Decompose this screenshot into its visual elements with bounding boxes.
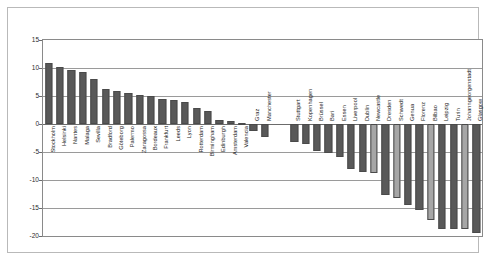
bar[interactable]	[404, 124, 411, 205]
bar-slot: Edinburgh	[214, 40, 225, 236]
x-axis-category-label: Manchester	[267, 91, 273, 121]
bar[interactable]	[336, 124, 343, 157]
bar-slot: Genua	[402, 40, 413, 236]
bar-slot: Frankfurt	[157, 40, 168, 236]
bar[interactable]	[45, 63, 52, 124]
bar[interactable]	[382, 124, 389, 195]
bar-slot: Dublin	[357, 40, 368, 236]
bar[interactable]	[159, 99, 166, 124]
bar-slot: Bordeaux	[145, 40, 156, 236]
bar[interactable]	[91, 79, 98, 124]
bar-slot: Bari	[323, 40, 334, 236]
figure-frame: 151050-5-10-15-20 StockholmHelsinkiNante…	[7, 7, 479, 253]
bar-slot: Schwedt	[391, 40, 402, 236]
bar-slot: Glasgow	[471, 40, 482, 236]
bar-slot: Turin	[448, 40, 459, 236]
bar-slot: Johanngeorgenstadt	[459, 40, 470, 236]
bar[interactable]	[313, 124, 320, 151]
bar[interactable]	[227, 121, 234, 124]
bar[interactable]	[439, 124, 446, 229]
bar-slot: Valencia	[236, 40, 247, 236]
bar-slot: Rotterdam	[191, 40, 202, 236]
bar[interactable]	[461, 124, 468, 229]
bar[interactable]	[370, 124, 377, 173]
bar[interactable]	[261, 124, 268, 137]
bar-slot: Stockholm	[43, 40, 54, 236]
bar[interactable]	[204, 111, 211, 124]
bar[interactable]	[302, 124, 309, 144]
bar[interactable]	[416, 124, 423, 210]
bar[interactable]	[427, 124, 434, 220]
bar[interactable]	[79, 72, 86, 124]
bar-slot: Lyon	[179, 40, 190, 236]
bar-slot: Birmingham	[202, 40, 213, 236]
x-axis-category-label: Glasgow	[478, 99, 484, 121]
bar[interactable]	[56, 67, 63, 124]
bar-slot: Stuttgart	[289, 40, 300, 236]
bar[interactable]	[291, 124, 298, 142]
bar-slot: Graz	[248, 40, 259, 236]
bar-slot: Brüssel	[311, 40, 322, 236]
bar[interactable]	[170, 100, 177, 124]
bar[interactable]	[193, 108, 200, 124]
bar[interactable]	[125, 93, 132, 124]
bar-slot: Malaga	[77, 40, 88, 236]
bar[interactable]	[250, 124, 257, 131]
bar[interactable]	[450, 124, 457, 229]
bar[interactable]	[393, 124, 400, 198]
bar[interactable]	[216, 120, 223, 124]
bar-slot: Bilbao	[425, 40, 436, 236]
bar[interactable]	[113, 91, 120, 124]
bar[interactable]	[359, 124, 366, 172]
bar-slot: Dresden	[380, 40, 391, 236]
bar-slot: Leeds	[168, 40, 179, 236]
bar[interactable]	[102, 89, 109, 124]
y-axis-tick-marks	[8, 39, 42, 237]
chart-screenshot: 151050-5-10-15-20 StockholmHelsinkiNante…	[0, 0, 488, 261]
bar[interactable]	[325, 124, 332, 153]
bar-slot: Leipzig	[437, 40, 448, 236]
bar-slot: Sevilla	[88, 40, 99, 236]
bar-slot: Bradford	[100, 40, 111, 236]
bar[interactable]	[182, 102, 189, 124]
bar-series: StockholmHelsinkiNantesMalagaSevillaBrad…	[43, 40, 482, 236]
bar-slot: Manchester	[259, 40, 270, 236]
bar[interactable]	[68, 70, 75, 124]
bar-slot: Göteborg	[111, 40, 122, 236]
bar-slot: Palermo	[123, 40, 134, 236]
bar-slot: Amsterdam	[225, 40, 236, 236]
bar-slot: Kopenhagen	[300, 40, 311, 236]
bar[interactable]	[473, 124, 480, 233]
bar[interactable]	[348, 124, 355, 169]
bar-slot: Essen	[334, 40, 345, 236]
bar-slot: Florenz	[414, 40, 425, 236]
bar[interactable]	[136, 95, 143, 124]
bar[interactable]	[147, 96, 154, 124]
bar-slot: Newcastle	[368, 40, 379, 236]
bar-slot: Helsinki	[54, 40, 65, 236]
bar-slot: Nantes	[66, 40, 77, 236]
bar-slot: Liverpool	[346, 40, 357, 236]
bar-slot: Zaragossa	[134, 40, 145, 236]
